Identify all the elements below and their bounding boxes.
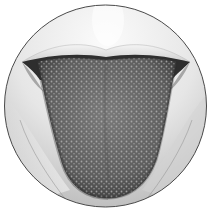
tongue-illustration	[0, 0, 211, 212]
drawing-group	[0, 0, 211, 212]
illustration-canvas	[0, 0, 211, 212]
